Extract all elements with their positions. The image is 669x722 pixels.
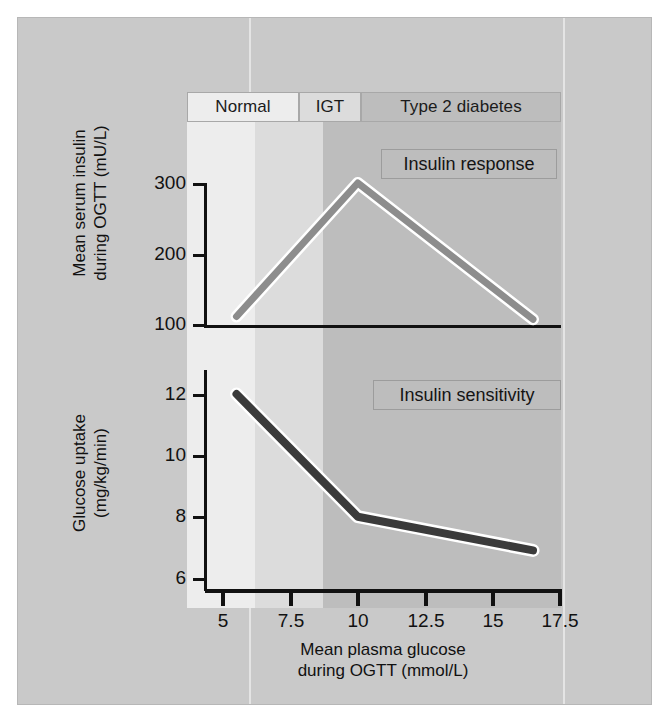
band-header-igt: IGT [299, 92, 361, 122]
band-body-normal [187, 122, 255, 608]
callout-insulin-response: Insulin response [381, 149, 557, 179]
xtick-5 [221, 593, 225, 606]
bottom-y-axis-title: Glucose uptake (mg/kg/min) [70, 368, 111, 578]
xtick-7.5 [289, 593, 293, 606]
band-label-normal: Normal [215, 97, 270, 117]
x-axis-title: Mean plasma glucose during OGTT (mmol/L) [233, 640, 533, 681]
band-body-igt [255, 122, 323, 608]
xtick-15 [491, 593, 495, 606]
xtick-17.5 [558, 593, 562, 606]
figure-root: Normal IGT Type 2 diabetes 300 200 100 M… [0, 0, 669, 722]
bottom-ytick-8 [193, 516, 205, 519]
band-body-t2d [323, 122, 561, 608]
bottom-ytick-label-6: 6 [140, 567, 186, 589]
top-y-axis-title-line2: during OGTT (mU/L) [91, 88, 112, 318]
bottom-ytick-12 [193, 394, 205, 397]
xtick-label-15: 15 [468, 610, 518, 632]
top-y-axis-title: Mean serum insulin during OGTT (mU/L) [70, 88, 111, 318]
xtick-label-10: 10 [333, 610, 383, 632]
xtick-label-7.5: 7.5 [266, 610, 316, 632]
top-ytick-label-200: 200 [140, 243, 186, 265]
xtick-label-5: 5 [198, 610, 248, 632]
top-ytick-label-300: 300 [140, 172, 186, 194]
bottom-y-axis-spine [204, 370, 207, 591]
x-axis-spine [205, 589, 562, 593]
top-baseline [204, 325, 561, 328]
bottom-ytick-label-10: 10 [140, 444, 186, 466]
x-axis-title-line2: during OGTT (mmol/L) [233, 661, 533, 682]
band-label-t2d: Type 2 diabetes [400, 97, 522, 117]
bottom-ytick-label-12: 12 [140, 383, 186, 405]
panel-guide-right [563, 18, 565, 704]
band-header-t2d: Type 2 diabetes [361, 92, 561, 122]
xtick-12.5 [424, 593, 428, 606]
bottom-ytick-6 [193, 578, 205, 581]
top-ytick-label-100: 100 [140, 313, 186, 335]
callout-insulin-response-label: Insulin response [403, 154, 534, 175]
callout-insulin-sensitivity: Insulin sensitivity [373, 380, 561, 410]
band-label-igt: IGT [316, 97, 345, 117]
bottom-ytick-label-8: 8 [140, 505, 186, 527]
bottom-ytick-10 [193, 455, 205, 458]
top-ytick-200 [193, 254, 205, 257]
top-ytick-300 [193, 183, 205, 186]
xtick-label-17.5: 17.5 [535, 610, 585, 632]
band-header-normal: Normal [187, 92, 299, 122]
top-y-axis-title-line1: Mean serum insulin [70, 88, 91, 318]
xtick-10 [356, 593, 360, 606]
x-axis-title-line1: Mean plasma glucose [233, 640, 533, 661]
chart-panel: Normal IGT Type 2 diabetes 300 200 100 M… [17, 17, 652, 705]
bottom-y-axis-title-line2: (mg/kg/min) [91, 368, 112, 578]
xtick-label-12.5: 12.5 [401, 610, 451, 632]
callout-insulin-sensitivity-label: Insulin sensitivity [399, 385, 534, 406]
bottom-y-axis-title-line1: Glucose uptake [70, 368, 91, 578]
